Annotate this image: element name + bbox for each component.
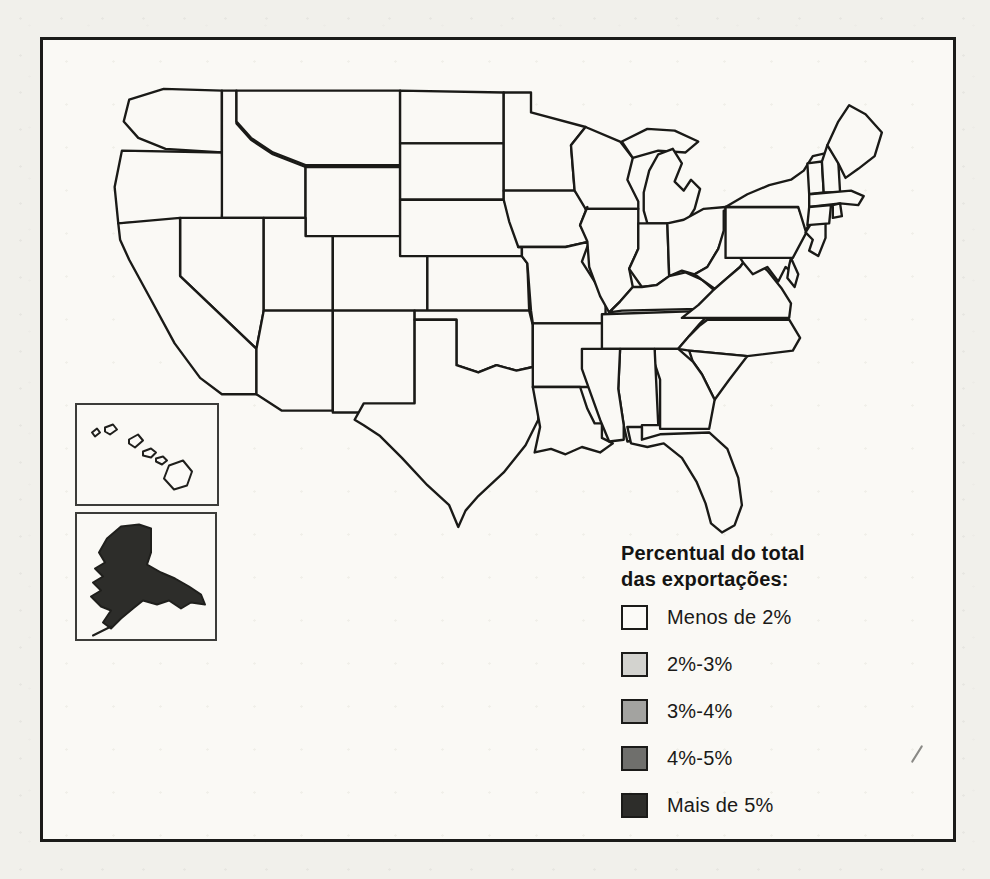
hawaii-island-big — [164, 461, 192, 490]
alaska-aleutian-tail — [93, 627, 111, 636]
state-kansas — [427, 256, 529, 311]
legend-items: Menos de 2% 2%-3% 3%-4% 4%-5% Mais de 5% — [621, 606, 951, 817]
legend-label-3-4pct: 3%-4% — [667, 700, 732, 723]
hawaii-island-3 — [129, 435, 143, 448]
state-pennsylvania — [726, 207, 808, 258]
legend-label-4-5pct: 4%-5% — [667, 747, 732, 770]
scanned-page: { "page": { "paper_color": "#f1f0eb", "f… — [0, 0, 990, 879]
hawaii-island-4 — [143, 449, 156, 458]
state-wyoming — [306, 167, 401, 236]
legend-swatch-3-4pct — [621, 699, 648, 724]
legend-row-3-4pct: 3%-4% — [621, 700, 951, 723]
state-connecticut — [807, 205, 831, 225]
state-iowa — [504, 191, 589, 247]
us-map — [111, 68, 911, 546]
legend-title-line1: Percentual do total — [621, 540, 951, 566]
figure-frame: Percentual do total das exportações: Men… — [40, 37, 956, 842]
legend-row-2-3pct: 2%-3% — [621, 653, 951, 676]
legend-swatch-more-5pct — [621, 793, 648, 818]
hawaii-island-5 — [156, 457, 167, 465]
state-michigan-lower — [644, 149, 700, 224]
state-nebraska — [400, 200, 522, 256]
state-rhode-island — [833, 203, 842, 218]
legend-swatch-less-2pct — [621, 605, 648, 630]
state-new-mexico — [333, 311, 415, 413]
legend-label-less-2pct: Menos de 2% — [667, 606, 792, 629]
alaska-map — [77, 514, 215, 639]
state-alaska — [91, 525, 205, 629]
state-north-dakota — [400, 91, 504, 144]
state-south-dakota — [400, 143, 504, 199]
hawaii-inset-box — [75, 403, 219, 506]
legend-title: Percentual do total das exportações: — [621, 540, 951, 592]
hawaii-island-2 — [105, 425, 117, 435]
legend-swatch-2-3pct — [621, 652, 648, 677]
legend-row-more-5pct: Mais de 5% — [621, 794, 951, 817]
legend-title-line2: das exportações: — [621, 566, 951, 592]
hawaii-islands-map — [77, 405, 217, 504]
map-legend: Percentual do total das exportações: Men… — [621, 540, 951, 841]
alaska-inset-box — [75, 512, 217, 641]
hawaii-island-1 — [92, 429, 100, 437]
legend-row-less-2pct: Menos de 2% — [621, 606, 951, 629]
state-florida — [627, 427, 742, 532]
state-oregon — [115, 151, 224, 224]
state-delaware — [787, 258, 798, 287]
state-arizona — [256, 311, 332, 411]
legend-label-more-5pct: Mais de 5% — [667, 794, 774, 817]
legend-label-2-3pct: 2%-3% — [667, 653, 732, 676]
legend-row-4-5pct: 4%-5% — [621, 747, 951, 770]
legend-swatch-4-5pct — [621, 746, 648, 771]
state-washington — [124, 89, 222, 153]
